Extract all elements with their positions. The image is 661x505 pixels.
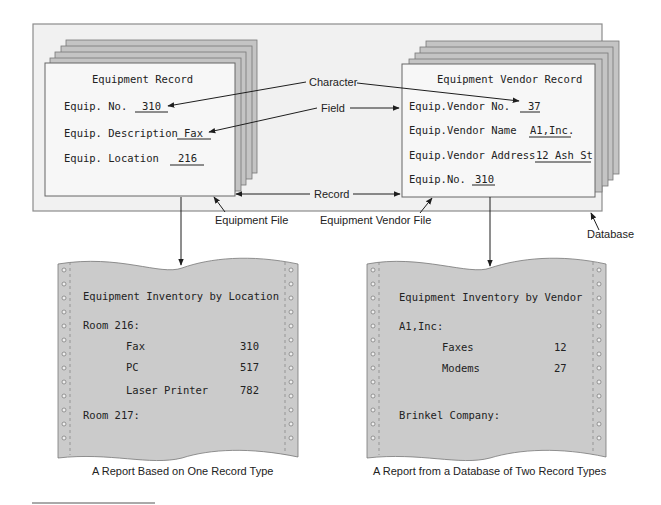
- equipment-record-title: Equipment Record: [92, 73, 193, 85]
- report-vendor-row1-value: 12: [554, 341, 567, 353]
- report-location-caption: A Report Based on One Record Type: [92, 465, 273, 477]
- report-vendor-group1: A1,Inc:: [399, 320, 443, 332]
- database-diagram: Equipment Record Equip. No. 310 Equip. D…: [0, 0, 661, 505]
- vendor-no-value: 37: [528, 100, 541, 112]
- vendor-address-label: Equip.Vendor Address: [409, 149, 535, 161]
- report-location-title: Equipment Inventory by Location: [83, 290, 279, 302]
- report-vendor-caption: A Report from a Database of Two Record T…: [373, 465, 607, 477]
- report-location-row1-value: 310: [240, 340, 259, 352]
- vendor-no-label: Equip.Vendor No.: [409, 100, 510, 112]
- report-location-group2: Room 217:: [83, 409, 140, 421]
- report-location-row2-value: 517: [240, 361, 259, 373]
- vendor-address-value: 12 Ash St: [536, 149, 593, 161]
- report-location-group1: Room 216:: [83, 319, 140, 331]
- equip-description-label: Equip. Description: [64, 127, 178, 139]
- label-record: Record: [314, 188, 349, 200]
- report-location-paper: [58, 258, 298, 460]
- equip-location-label: Equip. Location: [64, 152, 159, 164]
- equip-no-value: 310: [142, 100, 161, 112]
- vendor-record-title: Equipment Vendor Record: [437, 73, 582, 85]
- report-location-row2-item: PC: [126, 361, 139, 373]
- vendor-name-value: A1,Inc.: [530, 124, 574, 136]
- label-database: Database: [587, 228, 634, 240]
- report-vendor-row2-item: Modems: [442, 362, 480, 374]
- report-location-row1-item: Fax: [126, 340, 145, 352]
- equip-no-label: Equip. No.: [64, 100, 127, 112]
- vendor-name-label: Equip.Vendor Name: [409, 124, 516, 136]
- report-vendor-title: Equipment Inventory by Vendor: [399, 291, 582, 303]
- report-vendor-row2-value: 27: [554, 362, 567, 374]
- report-vendor-paper: [367, 258, 606, 460]
- report-location-row3-value: 782: [240, 384, 259, 396]
- report-location-row3-item: Laser Printer: [126, 384, 208, 396]
- label-field: Field: [321, 102, 345, 114]
- report-vendor-group2: Brinkel Company:: [399, 409, 500, 421]
- equip-description-value: Fax: [184, 127, 203, 139]
- vendor-equip-no-label: Equip.No.: [409, 173, 466, 185]
- equip-location-value: 216: [178, 152, 197, 164]
- label-character: Character: [309, 76, 358, 88]
- report-vendor-row1-item: Faxes: [442, 341, 474, 353]
- label-equipment-vendor-file: Equipment Vendor File: [320, 214, 431, 226]
- label-equipment-file: Equipment File: [215, 214, 288, 226]
- vendor-equip-no-value: 310: [475, 173, 494, 185]
